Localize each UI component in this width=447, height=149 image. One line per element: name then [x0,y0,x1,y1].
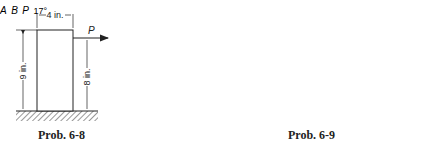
caption-prob-6-9: Prob. 6-9 [288,128,335,143]
caption-prob-6-8: Prob. 6-8 [38,128,85,143]
height-dimension-label: 9 in. [18,62,28,79]
ground-hatch [16,111,98,121]
force-label: P [88,25,95,36]
figure-prob-6-8: 4 in. 9 in. P 8 in. [16,10,108,121]
block [37,30,73,111]
force-height-dimension-label: 8 in. [82,68,92,85]
diagram-canvas: 4 in. 9 in. P 8 in. [0,0,447,149]
width-dimension-label: 4 in. [46,10,63,20]
